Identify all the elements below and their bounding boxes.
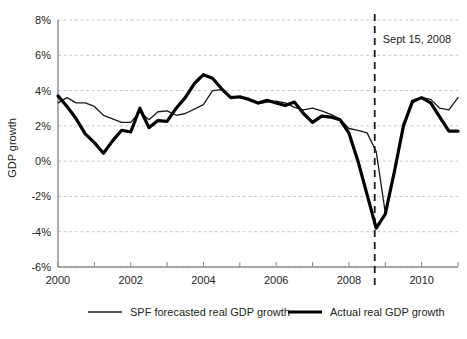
- y-axis-tick-label: 0%: [35, 155, 51, 167]
- x-axis-tick-label: 2010: [409, 274, 433, 286]
- series-line-actual-gdp: [58, 75, 458, 229]
- event-annotation-label: Sept 15, 2008: [383, 33, 452, 45]
- legend-group: SPF forecasted real GDP growthActual rea…: [88, 306, 445, 318]
- gdp-growth-chart: 8%6%4%2%0%-2%-4%-6% 20002002200420062008…: [0, 0, 467, 339]
- x-axis-tick-label: 2008: [337, 274, 361, 286]
- x-axis-tick-label: 2002: [118, 274, 142, 286]
- y-axis-tick-label: 6%: [35, 49, 51, 61]
- series-group: [58, 75, 458, 229]
- y-axis-tick-label: 4%: [35, 85, 51, 97]
- x-axis-tick-label: 2004: [191, 274, 215, 286]
- y-axis-tick-label: 8%: [35, 14, 51, 26]
- legend-label-actual-gdp: Actual real GDP growth: [330, 306, 445, 318]
- axes-group: [58, 20, 458, 267]
- y-axis-title: GDP growth: [6, 118, 18, 178]
- x-axis-tick-label: 2006: [264, 274, 288, 286]
- x-axis-tick-label: 2000: [46, 274, 70, 286]
- y-axis-tick-label: -2%: [31, 190, 51, 202]
- y-axis-tick-label: -6%: [31, 261, 51, 273]
- y-axis-tick-label: -4%: [31, 226, 51, 238]
- x-axis-tick-labels: 200020022004200620082010: [46, 274, 434, 286]
- legend-label-spf-forecast: SPF forecasted real GDP growth: [130, 306, 290, 318]
- y-axis-tick-label: 2%: [35, 120, 51, 132]
- y-axis-tick-labels: 8%6%4%2%0%-2%-4%-6%: [31, 14, 51, 273]
- gridlines-group: [58, 20, 458, 267]
- chart-canvas: 8%6%4%2%0%-2%-4%-6% 20002002200420062008…: [0, 0, 467, 339]
- tick-marks-group: [58, 262, 458, 267]
